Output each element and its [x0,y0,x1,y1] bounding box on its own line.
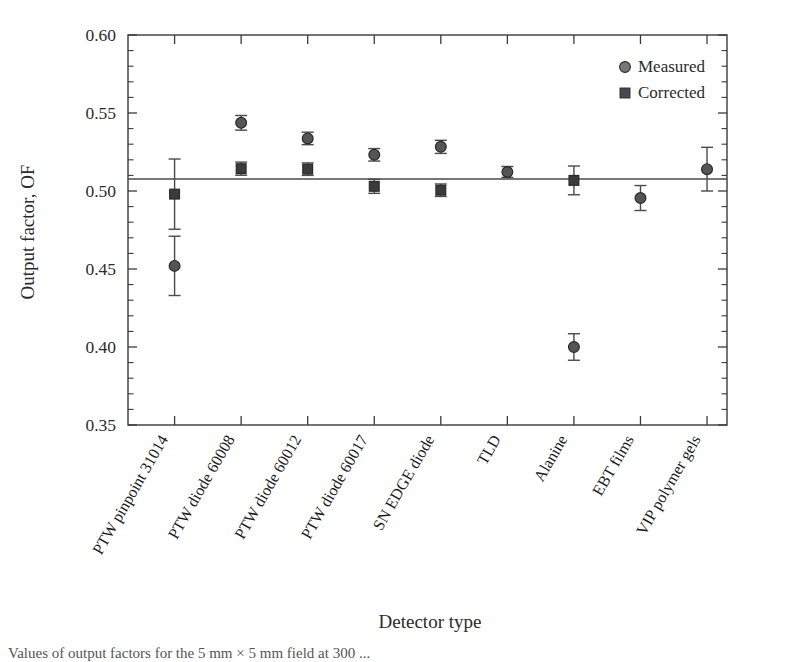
marker-circle-measured [502,167,513,178]
x-axis-title: Detector type [379,611,482,632]
x-category-label: EBT films [589,432,637,498]
marker-square-corrected [303,164,313,174]
legend-marker-square [620,88,630,98]
marker-circle-measured [702,164,713,175]
x-category-label: PTW pinpoint 31014 [89,432,172,558]
data-point-measured [568,334,580,361]
marker-circle-measured [369,149,380,160]
data-point-measured [368,149,380,161]
x-category-label: PTW diode 60017 [298,432,371,542]
data-point-measured [235,115,247,130]
marker-square-corrected [569,175,579,185]
data-point-measured [169,236,181,295]
y-tick-label: 0.45 [85,259,116,279]
y-tick-label: 0.40 [85,337,116,357]
x-category-label: Alanine [530,432,570,484]
data-point-corrected [368,179,380,193]
data-point-measured [302,132,314,144]
marker-circle-measured [435,141,446,152]
x-category-label: SN EDGE diode [369,432,437,533]
x-category-label: VIP polymer gels [633,432,705,538]
marker-circle-measured [236,117,247,128]
marker-circle-measured [569,342,580,353]
marker-circle-measured [302,133,313,144]
data-point-corrected [568,166,580,195]
data-point-corrected [435,184,447,196]
legend-label: Measured [638,57,706,76]
data-point-corrected [235,162,247,175]
x-category-label: TLD [474,432,504,467]
x-category-label: PTW diode 60008 [165,432,238,542]
y-tick-label: 0.50 [85,181,116,201]
marker-circle-measured [169,260,180,271]
data-point-corrected [302,163,314,175]
marker-square-corrected [369,181,379,191]
output-factor-chart: 0.600.550.500.450.400.35PTW pinpoint 310… [0,0,795,662]
marker-circle-measured [635,193,646,204]
figure-caption: Values of output factors for the 5 mm × … [8,645,370,661]
marker-square-corrected [436,185,446,195]
y-tick-label: 0.55 [85,103,116,123]
data-point-measured [501,167,513,178]
legend-label: Corrected [638,83,706,102]
y-axis-title: Output factor, OF [17,165,38,300]
legend-marker-circle [620,62,631,73]
chart-canvas: 0.600.550.500.450.400.35PTW pinpoint 310… [0,0,795,662]
y-tick-label: 0.60 [85,25,116,45]
data-point-measured [701,147,713,191]
marker-square-corrected [236,164,246,174]
data-point-corrected [169,159,181,229]
data-point-measured [435,140,447,153]
marker-square-corrected [170,189,180,199]
y-tick-label: 0.35 [85,415,116,435]
data-point-measured [634,186,646,211]
x-category-label: PTW diode 60012 [231,432,304,542]
